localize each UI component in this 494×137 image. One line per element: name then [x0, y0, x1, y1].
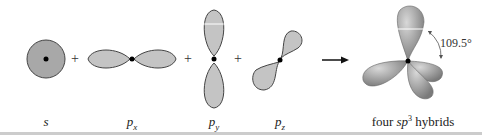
label-sp3-hybrids: four sp3 hybrids: [372, 114, 455, 130]
pz-orbital: [253, 31, 302, 90]
label-px: px: [127, 114, 138, 132]
py-orbital: [202, 10, 226, 108]
plus-sign: +: [234, 51, 242, 67]
arrow-icon: [322, 57, 349, 64]
bond-angle-label: 109.5°: [440, 36, 472, 51]
px-orbital: [88, 50, 176, 68]
label-pz: pz: [275, 114, 285, 132]
sp3-hybrid-orbitals: [363, 6, 443, 99]
plus-sign: +: [184, 51, 192, 67]
s-orbital: [27, 40, 65, 78]
plus-sign: +: [71, 51, 79, 67]
label-py: py: [209, 114, 220, 132]
label-s: s: [43, 114, 48, 130]
divider: [0, 132, 482, 135]
